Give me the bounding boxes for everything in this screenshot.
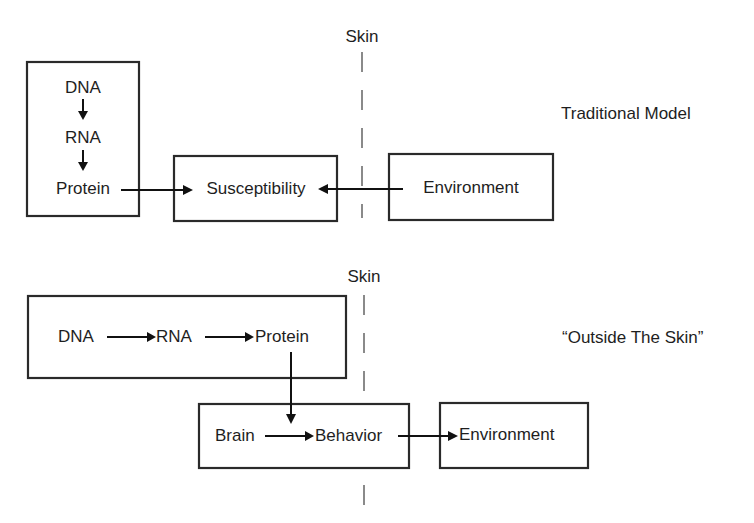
protein-label-traditional: Protein: [56, 179, 110, 199]
dna-label-outside: DNA: [58, 327, 94, 347]
traditional-model-title: Traditional Model: [561, 104, 691, 124]
environment-label-traditional: Environment: [423, 178, 518, 198]
arrow-right-icon: [205, 332, 254, 342]
arrow-left-icon: [318, 184, 403, 194]
protein-label-outside: Protein: [255, 327, 309, 347]
skin-label-top: Skin: [345, 27, 378, 47]
environment-label-outside: Environment: [459, 425, 554, 445]
outside-the-skin-title: “Outside The Skin”: [562, 328, 703, 348]
brain-label: Brain: [215, 426, 255, 446]
skin-label-bottom: Skin: [347, 267, 380, 287]
behavior-label: Behavior: [315, 426, 382, 446]
susceptibility-label: Susceptibility: [206, 179, 305, 199]
arrow-down-icon: [78, 99, 88, 120]
rna-label-traditional: RNA: [65, 128, 101, 148]
arrow-right-icon: [107, 332, 156, 342]
rna-label-outside: RNA: [156, 327, 192, 347]
arrow-down-icon: [78, 150, 88, 171]
arrow-right-icon: [121, 185, 193, 195]
dna-label-traditional: DNA: [65, 78, 101, 98]
